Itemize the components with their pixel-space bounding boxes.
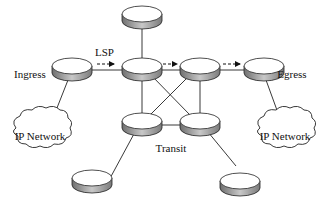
link-transit-right-bottom [208,132,236,166]
router-r2 [180,58,220,81]
router-transit-left [122,113,162,136]
label-transit: Transit [156,142,187,154]
label-egress: Egress [277,68,306,80]
router-bottom-left [72,170,112,193]
router-top [122,6,162,29]
link-transit-left-bottom [108,132,135,182]
link-egress-cloud [266,80,278,113]
router-r1 [122,58,162,81]
label-ip-network-right: IP Network [260,130,311,142]
label-lsp: LSP [95,46,114,58]
router-ingress [52,58,92,81]
links [55,20,278,182]
label-ip-network-left: IP Network [15,130,66,142]
label-ingress: Ingress [14,68,46,80]
router-transit-right [180,113,220,136]
router-bottom-right [220,173,260,196]
mpls-diagram: LSP Ingress Egress Transit IP Network IP… [0,0,327,208]
